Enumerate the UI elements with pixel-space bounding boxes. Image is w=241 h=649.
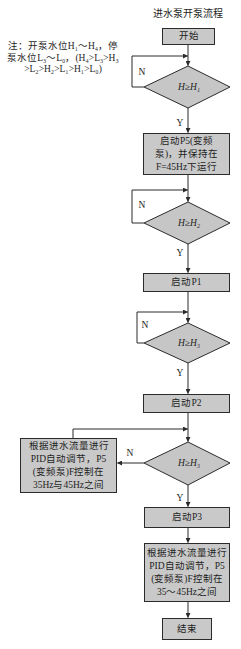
start-label: 开始 [179,30,199,43]
decision4-yes-label: Y [175,493,185,503]
water-level-note: 注：开泵水位H₁～H₄，停 泵水位L₃～L₀，(H₄>L₃>H₃ >L₂>H₂>… [2,41,124,76]
step-text-line: 根据进水流量进行 [29,440,109,453]
step-label: 启动P1 [171,276,201,289]
start-p5-node: 启动P5(变频 泵)，并保持在 F=45Hz下运行 [143,133,230,175]
start-p1-node: 启动P1 [143,273,230,292]
decision3-label: H≥H₃ [159,337,219,349]
decision1-no-label: N [137,67,147,77]
note-line: >L₂>H₂>L₁>H₁>L₀) [2,64,124,76]
step-text-line: F=45Hz下运行 [156,161,217,174]
edge-sidestep-merge [73,429,188,438]
step-text-line: PID自动调节，P5 [31,453,106,466]
pid-control-side-node: 根据进水流量进行 PID自动调节，P5 (变频泵)F控制在 35Hz与45Hz之… [20,438,117,493]
decision3-yes-label: Y [175,368,185,378]
step-text-line: (变频泵)F控制在 [33,466,105,479]
decision1-label: H≥H₁ [159,81,219,93]
step-text-line: 35Hz与45Hz之间 [33,479,104,492]
decision2-yes-label: Y [175,248,185,258]
end-label: 结束 [177,623,197,636]
start-p2-node: 启动P2 [143,394,230,413]
decision3-no-label: N [140,320,150,330]
decision1-yes-label: Y [175,118,185,128]
flowchart-canvas: 进水泵开泵流程 注：开泵水位H₁～H₄，停 泵水位L₃～L₀，(H₄>L₃>H₃… [0,0,241,649]
start-p3-node: 启动P3 [144,507,230,528]
decision2-label: H≥H₂ [159,217,219,229]
pid-control-node: 根据进水流量进行 PID自动调节，P5 (变频泵)F控制在 35～45Hz之间 [144,543,230,602]
step-label: 启动P3 [172,511,202,524]
step-text-line: PID自动调节，P5 [149,560,224,573]
end-node: 结束 [162,618,212,640]
step-text-line: 泵)，并保持在 [155,148,218,161]
diagram-title: 进水泵开泵流程 [146,8,230,20]
decision2-no-label: N [137,200,147,210]
decision4-no-label: N [125,448,135,458]
step-label: 启动P2 [171,397,201,410]
step-text-line: 35～45Hz之间 [157,586,217,599]
decision4-label: H≥H₃ [159,457,219,469]
start-node: 开始 [162,28,215,45]
step-text-line: 根据进水流量进行 [147,547,227,560]
note-line: 注：开泵水位H₁～H₄，停 [2,41,124,53]
step-text-line: 启动P5(变频 [160,135,213,148]
note-line: 泵水位L₃～L₀，(H₄>L₃>H₃ [2,53,124,65]
step-text-line: (变频泵)F控制在 [151,573,223,586]
